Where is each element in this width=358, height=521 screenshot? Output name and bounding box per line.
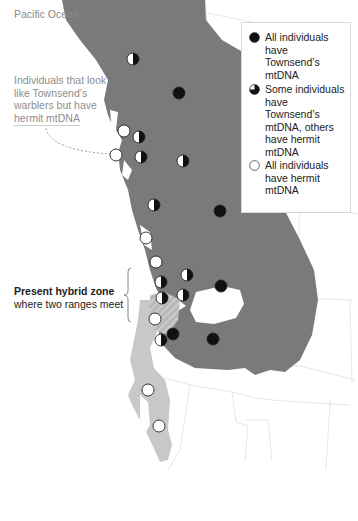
- marker-townsend: [215, 280, 227, 292]
- hybrid-zone-title: Present hybrid zone: [14, 285, 134, 298]
- legend-label: Some individuals have Townsend’s mtDNA, …: [265, 83, 345, 158]
- callout-arrow: [46, 128, 110, 154]
- half-filled-circle-icon: [249, 84, 260, 95]
- open-circle-icon: [249, 160, 260, 171]
- marker-mixed: [133, 131, 145, 143]
- marker-townsend: [173, 87, 185, 99]
- legend-item-townsend: All individuals have Townsend’s mtDNA: [249, 31, 345, 81]
- legend-label: All individuals have hermit mtDNA: [265, 159, 345, 197]
- marker-townsend: [214, 205, 226, 217]
- callout-underline: [14, 125, 80, 126]
- marker-mixed: [177, 289, 189, 301]
- marker-mixed: [181, 269, 193, 281]
- marker-mixed: [177, 155, 189, 167]
- marker-townsend: [167, 328, 179, 340]
- legend-item-mixed: Some individuals have Townsend’s mtDNA, …: [249, 83, 345, 158]
- marker-townsend: [207, 333, 219, 345]
- marker-hermit: [118, 125, 130, 137]
- marker-hermit: [142, 384, 154, 396]
- legend-item-hermit: All individuals have hermit mtDNA: [249, 159, 345, 197]
- callout-text: Individuals that look like Townsend’s wa…: [14, 74, 124, 124]
- marker-hermit: [150, 256, 162, 268]
- legend: All individuals have Townsend’s mtDNA So…: [241, 22, 351, 213]
- marker-mixed: [127, 53, 139, 65]
- filled-circle-icon: [249, 32, 260, 43]
- marker-mixed: [155, 276, 167, 288]
- marker-hermit: [110, 149, 122, 161]
- marker-mixed: [135, 151, 147, 163]
- ocean-label: Pacific Ocean: [14, 8, 79, 20]
- legend-label: All individuals have Townsend’s mtDNA: [265, 31, 345, 81]
- hybrid-zone-label: Present hybrid zone where two ranges mee…: [14, 285, 134, 311]
- marker-mixed: [156, 292, 168, 304]
- marker-hermit: [153, 420, 165, 432]
- marker-hermit: [149, 313, 161, 325]
- marker-hermit: [140, 232, 152, 244]
- marker-mixed: [148, 199, 160, 211]
- hybrid-zone-subtitle: where two ranges meet: [14, 298, 123, 310]
- marker-mixed: [155, 334, 167, 346]
